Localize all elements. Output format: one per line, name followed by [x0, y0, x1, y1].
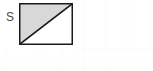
rectangle-with-diagonal-svg	[19, 3, 73, 45]
shape-label: S	[4, 9, 16, 25]
shaded-rectangle-figure	[19, 3, 73, 45]
diagram-canvas: S	[0, 0, 153, 71]
